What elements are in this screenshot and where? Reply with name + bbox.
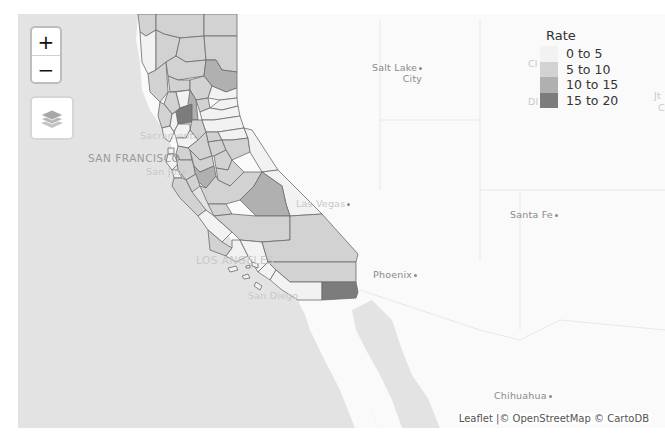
edge-label-jt: Jt xyxy=(654,90,661,101)
legend-title: Rate xyxy=(546,28,618,43)
legend-item: 5 to 10 xyxy=(540,62,618,78)
edge-label-c: C xyxy=(658,102,665,113)
legend-item: 0 to 5 xyxy=(540,46,618,62)
city-label-san-jose: San Jose xyxy=(146,166,188,177)
city-label-san-francisco: SAN FRANCISCO xyxy=(88,152,180,164)
city-dot-icon xyxy=(419,67,422,70)
city-label-chihuahua: Chihuahua xyxy=(494,390,552,401)
city-label-phoenix: Phoenix xyxy=(373,269,417,280)
city-label-santa-fe: Santa Fe xyxy=(510,209,558,220)
city-label-san-diego: San Diego xyxy=(248,290,298,301)
legend-label: 5 to 10 xyxy=(566,62,610,77)
leaflet-link[interactable]: Leaflet xyxy=(459,413,493,424)
city-label-salt-lake-city: Salt Lake City xyxy=(372,62,422,84)
city-dot-icon xyxy=(414,274,417,277)
layers-control-button[interactable] xyxy=(30,96,74,140)
legend-swatch xyxy=(540,46,558,62)
county-imperial xyxy=(322,282,358,300)
map-legend: Rate 0 to 5 5 to 10 10 to 15 15 to 20 xyxy=(540,28,618,108)
zoom-control: + − xyxy=(30,26,62,84)
zoom-out-button[interactable]: − xyxy=(32,56,60,83)
zoom-in-button[interactable]: + xyxy=(32,28,60,56)
legend-swatch xyxy=(540,62,558,78)
county-shasta xyxy=(176,36,206,62)
county-modoc xyxy=(204,14,237,36)
edge-label-dl: Dl xyxy=(528,96,538,107)
attribution-separator: |© xyxy=(493,413,513,424)
city-dot-icon xyxy=(555,214,558,217)
city-dot-icon xyxy=(347,203,350,206)
city-label-sacramento: Sacramento xyxy=(140,130,199,141)
cartodb-link[interactable]: © CartoDB xyxy=(591,413,649,424)
legend-swatch xyxy=(540,77,558,93)
legend-item: 15 to 20 xyxy=(540,93,618,109)
layers-icon xyxy=(40,107,64,129)
city-label-las-vegas: Las Vegas xyxy=(296,198,350,209)
legend-label: 10 to 15 xyxy=(566,77,618,92)
map-attribution: Leaflet |© OpenStreetMap © CartoDB xyxy=(457,413,651,424)
legend-swatch xyxy=(540,93,558,109)
legend-label: 15 to 20 xyxy=(566,93,618,108)
city-label-los-angeles: LOS ANGELES xyxy=(196,254,274,266)
city-dot-icon xyxy=(549,395,552,398)
legend-label: 0 to 5 xyxy=(566,46,602,61)
openstreetmap-link[interactable]: OpenStreetMap xyxy=(513,413,591,424)
edge-label-cl: Cl xyxy=(528,58,538,69)
legend-item: 10 to 15 xyxy=(540,77,618,93)
